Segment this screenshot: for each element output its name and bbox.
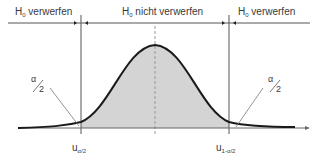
region-label-accept: H0 nicht verwerfen — [122, 6, 203, 18]
region-label-reject-right: H0 verwerfen — [238, 6, 295, 18]
arrow-right-icon — [233, 21, 236, 25]
region-label-reject-left: H0 verwerfen — [15, 6, 72, 18]
alpha-leader-right — [236, 88, 263, 127]
arrow-right-icon — [85, 21, 88, 25]
critical-value-right: u1-α/2 — [216, 142, 235, 154]
arrow-left-icon — [74, 21, 77, 25]
alpha-leader-left — [50, 88, 79, 126]
critical-value-left: uα/2 — [72, 142, 86, 154]
arrow-left-icon — [222, 21, 225, 25]
alpha-half-left-den: 2 — [39, 84, 44, 94]
alpha-half-right-num: α — [268, 74, 273, 84]
alpha-half-left-num: α — [31, 74, 36, 84]
alpha-half-right-den: 2 — [276, 84, 281, 94]
x-axis-arrow-icon — [305, 126, 310, 130]
